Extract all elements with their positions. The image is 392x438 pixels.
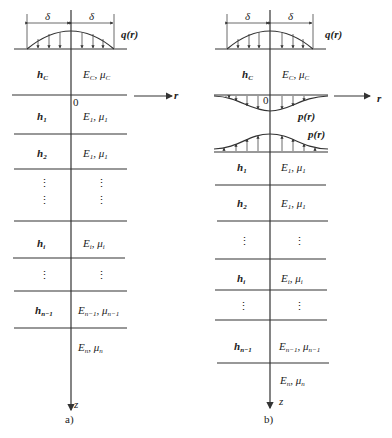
layer-thickness: hi [37,237,45,251]
r-axis-label: r [174,89,179,101]
layer-thickness: h1 [37,110,47,124]
delta-left-label: δ [245,10,251,22]
layer-thickness: hn−1 [234,340,252,354]
contact-pressure-label-bottom: p(r) [307,128,325,141]
q-load-b: q(r) [215,28,342,49]
layer-modulus: E1, μ1 [82,110,108,124]
z-axis-label: z [73,398,79,410]
delta-right-label: δ [288,10,294,22]
layer-thickness: h1 [237,161,247,175]
q-load-label: q(r) [121,28,138,41]
layer-modulus: Ei, μi [280,272,303,286]
delta-right-label: δ [89,10,95,22]
ellipsis: ⋮ [39,269,50,281]
layer-modulus: En, μn [279,374,305,388]
contact-pressure-label-top: p(r) [297,110,315,123]
figure-b: δ δ q(r) z r 0 [214,10,382,426]
layer-modulus: En−1, μn−1 [278,340,320,354]
z-axis-label: z [278,395,284,407]
layered-pavement-diagram: δ δ q(r) z r 0 [0,0,392,438]
layer-labels-a: hC EC, μC h1 E1, μ1 h2 E1, μ1 ⋮ ⋮ ⋮ ⋮ hi… [35,68,119,355]
layer-modulus: EC, μC [281,68,309,82]
layer-boundaries-a [12,95,127,328]
contact-pressure-top: p(r) [214,95,328,123]
layer-modulus: EC, μC [82,68,110,82]
ellipsis: ⋮ [96,177,107,189]
r-axis-label: r [377,92,382,104]
ellipsis: ⋮ [39,194,50,206]
figure-a: δ δ q(r) z r 0 [12,10,179,426]
layer-thickness: hn−1 [35,304,53,318]
contact-pressure-bottom: p(r) [214,128,328,152]
delta-left-label: δ [45,10,51,22]
layer-thickness: hC [37,68,48,82]
layer-thickness: hi [237,272,245,286]
layer-modulus: E1, μ1 [280,161,306,175]
ellipsis: ⋮ [294,300,305,312]
layer-modulus: En−1, μn−1 [77,304,119,318]
layer-modulus: Ei, μi [82,237,105,251]
origin-label: 0 [73,96,79,108]
layer-boundaries-b [215,185,329,363]
q-load-label: q(r) [325,28,342,41]
layer-modulus: E1, μ1 [82,147,108,161]
caption-a: a) [65,413,74,426]
q-load-a: q(r) [14,28,138,49]
ellipsis: ⋮ [294,235,305,247]
caption-b: b) [264,413,274,426]
layer-thickness: h2 [237,197,247,211]
layer-modulus: E1, μ1 [280,197,306,211]
ellipsis: ⋮ [96,269,107,281]
ellipsis: ⋮ [96,194,107,206]
ellipsis: ⋮ [239,235,250,247]
ellipsis: ⋮ [39,177,50,189]
layer-thickness: h2 [37,147,47,161]
layer-modulus: En, μn [77,341,103,355]
ellipsis: ⋮ [238,300,249,312]
layer-thickness: hC [242,68,253,82]
origin-label: 0 [263,94,269,106]
